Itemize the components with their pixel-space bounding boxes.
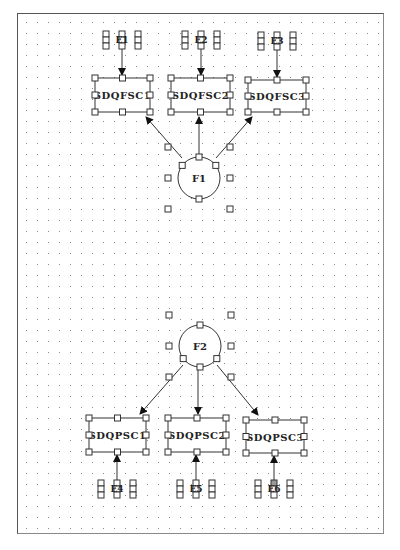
resize-handle[interactable] (92, 75, 98, 81)
resize-handle[interactable] (227, 75, 233, 81)
path-arrow-f1-top3[interactable] (216, 117, 252, 158)
resize-handle[interactable] (165, 206, 171, 212)
resize-handle[interactable] (179, 162, 185, 168)
resize-handle[interactable] (165, 449, 171, 455)
resize-handle[interactable] (301, 450, 307, 456)
resize-handle[interactable] (272, 450, 278, 456)
resize-handle[interactable] (290, 44, 296, 50)
error-term-e5[interactable]: E5 (177, 480, 215, 498)
resize-handle[interactable] (209, 492, 215, 498)
error-term-e2[interactable]: E2 (182, 31, 220, 49)
indicator-box-sdqpsc2[interactable]: SDQPSC2 (165, 415, 229, 455)
resize-handle[interactable] (228, 374, 234, 380)
resize-handle[interactable] (103, 37, 109, 43)
resize-handle[interactable] (115, 415, 121, 421)
resize-handle[interactable] (165, 144, 171, 150)
resize-handle[interactable] (165, 175, 171, 181)
resize-handle[interactable] (209, 486, 215, 492)
resize-handle[interactable] (177, 480, 183, 486)
resize-handle[interactable] (115, 449, 121, 455)
factor-node-f1[interactable]: F1 (165, 144, 233, 212)
path-arrow-f1-top1[interactable] (146, 117, 182, 158)
resize-handle[interactable] (228, 312, 234, 318)
resize-handle[interactable] (120, 75, 126, 81)
error-term-e4[interactable]: E4 (98, 480, 136, 498)
resize-handle[interactable] (272, 417, 278, 423)
resize-handle[interactable] (301, 417, 307, 423)
resize-handle[interactable] (303, 77, 309, 83)
error-term-e3[interactable]: E3 (258, 32, 296, 50)
resize-handle[interactable] (147, 109, 153, 115)
resize-handle[interactable] (197, 364, 203, 370)
resize-handle[interactable] (86, 415, 92, 421)
resize-handle[interactable] (143, 432, 149, 438)
resize-handle[interactable] (255, 492, 261, 498)
resize-handle[interactable] (147, 92, 153, 98)
resize-handle[interactable] (86, 432, 92, 438)
resize-handle[interactable] (198, 75, 204, 81)
resize-handle[interactable] (255, 480, 261, 486)
path-arrow-f2-bot3[interactable] (217, 365, 258, 415)
resize-handle[interactable] (120, 109, 126, 115)
error-term-e6[interactable]: E6 (255, 480, 293, 498)
resize-handle[interactable] (143, 415, 149, 421)
resize-handle[interactable] (177, 486, 183, 492)
resize-handle[interactable] (92, 109, 98, 115)
resize-handle[interactable] (245, 93, 251, 99)
resize-handle[interactable] (98, 486, 104, 492)
resize-handle[interactable] (214, 356, 220, 362)
resize-handle[interactable] (209, 480, 215, 486)
error-term-e1[interactable]: E1 (103, 31, 141, 49)
resize-handle[interactable] (274, 109, 280, 115)
resize-handle[interactable] (227, 144, 233, 150)
resize-handle[interactable] (180, 356, 186, 362)
resize-handle[interactable] (227, 92, 233, 98)
resize-handle[interactable] (227, 109, 233, 115)
resize-handle[interactable] (214, 43, 220, 49)
resize-handle[interactable] (243, 417, 249, 423)
resize-handle[interactable] (165, 432, 171, 438)
factor-node-f2[interactable]: F2 (166, 312, 234, 380)
path-arrow-f2-bot1[interactable] (140, 365, 183, 414)
resize-handle[interactable] (135, 37, 141, 43)
resize-handle[interactable] (130, 492, 136, 498)
resize-handle[interactable] (147, 75, 153, 81)
indicator-box-sdqpsc1[interactable]: SDQPSC1 (86, 415, 149, 455)
resize-handle[interactable] (168, 92, 174, 98)
resize-handle[interactable] (287, 492, 293, 498)
resize-handle[interactable] (194, 415, 200, 421)
resize-handle[interactable] (255, 486, 261, 492)
resize-handle[interactable] (197, 322, 203, 328)
resize-handle[interactable] (223, 415, 229, 421)
resize-handle[interactable] (196, 154, 202, 160)
resize-handle[interactable] (303, 93, 309, 99)
resize-handle[interactable] (303, 109, 309, 115)
resize-handle[interactable] (228, 343, 234, 349)
resize-handle[interactable] (182, 37, 188, 43)
resize-handle[interactable] (143, 449, 149, 455)
resize-handle[interactable] (287, 480, 293, 486)
resize-handle[interactable] (213, 162, 219, 168)
resize-handle[interactable] (166, 343, 172, 349)
resize-handle[interactable] (223, 432, 229, 438)
resize-handle[interactable] (196, 196, 202, 202)
resize-handle[interactable] (223, 449, 229, 455)
resize-handle[interactable] (258, 44, 264, 50)
resize-handle[interactable] (290, 38, 296, 44)
resize-handle[interactable] (166, 312, 172, 318)
resize-handle[interactable] (227, 206, 233, 212)
resize-handle[interactable] (198, 109, 204, 115)
resize-handle[interactable] (98, 492, 104, 498)
indicator-box-sdqfsc2[interactable]: SDQFSC2 (168, 75, 233, 115)
resize-handle[interactable] (168, 75, 174, 81)
resize-handle[interactable] (258, 38, 264, 44)
resize-handle[interactable] (214, 31, 220, 37)
resize-handle[interactable] (182, 43, 188, 49)
resize-handle[interactable] (243, 434, 249, 440)
indicator-box-sdqpsc3[interactable]: SDQPSC3 (243, 417, 307, 456)
resize-handle[interactable] (227, 175, 233, 181)
resize-handle[interactable] (103, 43, 109, 49)
resize-handle[interactable] (92, 92, 98, 98)
resize-handle[interactable] (274, 77, 280, 83)
resize-handle[interactable] (135, 31, 141, 37)
